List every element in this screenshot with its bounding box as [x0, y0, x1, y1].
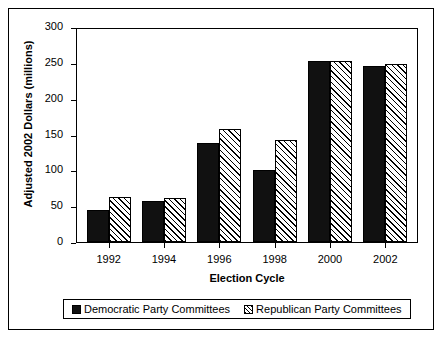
legend-item-republican: Republican Party Committees — [244, 303, 402, 315]
x-tick-label: 1992 — [87, 253, 131, 265]
bar-republican-2002 — [385, 64, 407, 242]
x-tick-mark — [164, 243, 165, 248]
x-tick-label: 1998 — [253, 253, 297, 265]
x-tick-label: 2002 — [363, 253, 407, 265]
bar-group-2002 — [363, 29, 407, 242]
bar-group-1994 — [142, 29, 186, 242]
chart-legend: Democratic Party Committees Republican P… — [63, 299, 411, 319]
x-tick-mark — [330, 243, 331, 248]
y-tick-label: 200 — [45, 92, 63, 104]
y-tick-200: 200 — [0, 100, 76, 101]
bar-democratic-1992 — [87, 210, 109, 242]
bar-group-1998 — [253, 29, 297, 242]
x-tick-mark — [385, 243, 386, 248]
legend-swatch-democratic-icon — [72, 305, 81, 314]
bar-group-1996 — [197, 29, 241, 242]
x-tick-mark — [275, 243, 276, 248]
bar-group-2000 — [308, 29, 352, 242]
legend-item-democratic: Democratic Party Committees — [72, 303, 230, 315]
x-tick-label: 1994 — [142, 253, 186, 265]
y-tick-100: 100 — [0, 171, 76, 172]
y-tick-300: 300 — [0, 28, 76, 29]
x-tick-label: 1996 — [197, 253, 241, 265]
bar-republican-1994 — [164, 198, 186, 242]
bar-group-1992 — [87, 29, 131, 242]
y-tick-label: 50 — [51, 199, 63, 211]
plot-area — [76, 28, 418, 243]
y-tick-0: 0 — [0, 243, 76, 244]
x-axis-title: Election Cycle — [76, 272, 418, 284]
bar-democratic-1998 — [253, 170, 275, 242]
bar-chart-figure: Adjusted 2002 Dollars (millions) 3002502… — [0, 0, 442, 340]
y-tick-150: 150 — [0, 136, 76, 137]
bar-democratic-2002 — [363, 66, 385, 242]
bar-republican-1998 — [275, 140, 297, 242]
legend-label-democratic: Democratic Party Committees — [84, 303, 230, 315]
bar-republican-1992 — [109, 197, 131, 242]
bar-democratic-1994 — [142, 201, 164, 242]
bar-series-container — [77, 29, 417, 242]
x-tick-label: 2000 — [308, 253, 352, 265]
bar-democratic-2000 — [308, 61, 330, 242]
y-tick-label: 250 — [45, 56, 63, 68]
bar-republican-1996 — [219, 129, 241, 242]
y-tick-mark — [71, 243, 76, 244]
y-tick-label: 300 — [45, 20, 63, 32]
legend-label-republican: Republican Party Committees — [256, 303, 402, 315]
y-tick-label: 0 — [57, 235, 63, 247]
legend-swatch-republican-icon — [244, 305, 253, 314]
y-tick-50: 50 — [0, 207, 76, 208]
y-tick-label: 100 — [45, 163, 63, 175]
y-tick-label: 150 — [45, 128, 63, 140]
x-tick-mark — [219, 243, 220, 248]
y-axis-title: Adjusted 2002 Dollars (millions) — [22, 24, 34, 224]
y-tick-250: 250 — [0, 64, 76, 65]
x-tick-mark — [109, 243, 110, 248]
bar-republican-2000 — [330, 61, 352, 242]
bar-democratic-1996 — [197, 143, 219, 242]
